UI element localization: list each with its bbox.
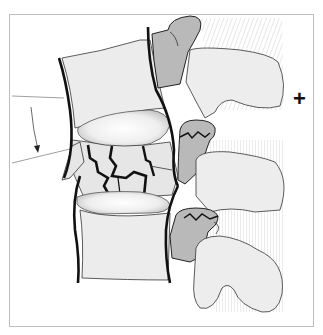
- reference-line-upper: [12, 96, 64, 98]
- arrowhead-icon: [34, 145, 40, 153]
- middle-spinous-process: [196, 152, 284, 212]
- lower-vertebral-body: [80, 210, 170, 280]
- figure: +: [0, 0, 323, 335]
- anterior-ligament-lower: [74, 176, 80, 283]
- plus-marker: +: [293, 88, 306, 110]
- reference-line-lower: [12, 149, 70, 163]
- lower-intervertebral-disc: [77, 192, 170, 214]
- rotation-arrow-icon: [31, 107, 38, 150]
- spine-fracture-diagram: [0, 0, 323, 335]
